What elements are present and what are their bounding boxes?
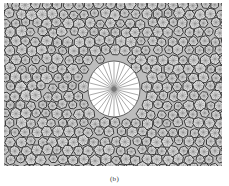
figure-caption: (b) — [0, 175, 229, 183]
cell-pattern-image — [4, 3, 222, 166]
micrograph-figure — [4, 3, 222, 166]
